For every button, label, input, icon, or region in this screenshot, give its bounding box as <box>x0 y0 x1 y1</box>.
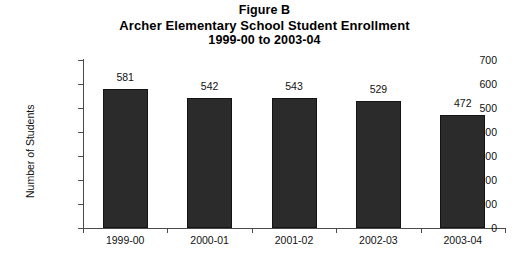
x-axis-line <box>83 228 505 229</box>
bar-value-label: 542 <box>201 80 219 92</box>
bar-value-label: 543 <box>285 80 303 92</box>
y-tick-mark <box>78 204 83 205</box>
bar <box>440 115 485 228</box>
x-tick-mark <box>252 228 253 233</box>
x-tick-label: 2002-03 <box>359 234 398 246</box>
y-tick-mark <box>78 156 83 157</box>
y-axis-title: Number of Students <box>24 96 40 206</box>
x-tick-mark <box>336 228 337 233</box>
bar <box>187 98 232 228</box>
x-tick-mark <box>167 228 168 233</box>
x-tick-label: 2003-04 <box>444 234 483 246</box>
bar <box>272 98 317 228</box>
chart-title-block: Figure B Archer Elementary School Studen… <box>0 3 529 48</box>
x-tick-label: 1999-00 <box>106 234 145 246</box>
x-tick-mark <box>505 228 506 233</box>
y-tick-mark <box>78 132 83 133</box>
bar-value-label: 529 <box>370 83 388 95</box>
bar <box>103 89 148 228</box>
y-tick-label: 700 <box>479 54 497 66</box>
y-tick-label: 600 <box>479 78 497 90</box>
figure-label: Figure B <box>0 3 529 18</box>
bar-value-label: 581 <box>116 71 134 83</box>
plot-area: 0100200300400500600700 581542543529472 <box>83 60 505 228</box>
y-tick-mark <box>78 60 83 61</box>
chart-subtitle: 1999-00 to 2003-04 <box>0 33 529 48</box>
bar-value-label: 472 <box>454 97 472 109</box>
x-tick-mark <box>421 228 422 233</box>
figure-container: Figure B Archer Elementary School Studen… <box>0 0 529 265</box>
y-tick-mark <box>78 180 83 181</box>
y-tick-label: 0 <box>491 222 497 234</box>
y-tick-mark <box>78 84 83 85</box>
y-tick-label: 500 <box>479 102 497 114</box>
chart-title: Archer Elementary School Student Enrollm… <box>0 18 529 33</box>
x-tick-label: 2000-01 <box>190 234 229 246</box>
x-tick-label: 2001-02 <box>275 234 314 246</box>
bar <box>356 101 401 228</box>
y-tick-mark <box>78 108 83 109</box>
x-tick-mark <box>83 228 84 233</box>
